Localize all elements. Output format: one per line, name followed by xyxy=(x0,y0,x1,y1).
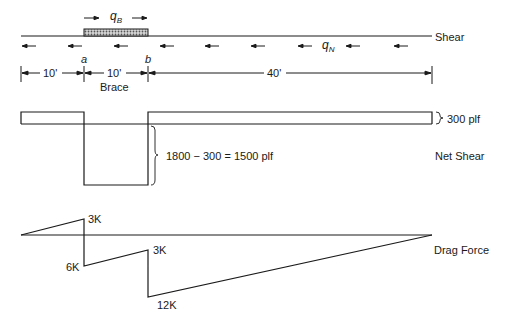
point-a-label: a xyxy=(81,53,87,65)
dim-right-label: 40' xyxy=(267,67,281,79)
drag-label-3k-b: 3K xyxy=(153,244,166,256)
drag-force-curve xyxy=(21,219,432,297)
brace-shear-value: 1800 − 300 = 1500 plf xyxy=(166,150,273,162)
net-shear-panel-title: Net Shear xyxy=(435,150,485,162)
drag-force-panel xyxy=(21,219,432,297)
brace-300 xyxy=(436,112,443,124)
shear-panel-title: Shear xyxy=(435,31,464,43)
drag-force-panel-title: Drag Force xyxy=(434,244,489,256)
brace-load-label: qB xyxy=(110,10,122,24)
diagram-canvas xyxy=(0,0,508,330)
drag-label-6k: 6K xyxy=(66,261,79,273)
dimension-line xyxy=(21,66,432,84)
net-load-arrows xyxy=(22,44,408,47)
net-shear-profile xyxy=(21,112,432,185)
net-shear-panel xyxy=(21,112,443,185)
brace-hatched-bar xyxy=(84,29,148,36)
uniform-shear-value: 300 plf xyxy=(447,113,480,125)
point-b-label: b xyxy=(145,53,151,65)
dim-left-label: 10' xyxy=(43,67,57,79)
net-load-label: qN xyxy=(322,39,334,53)
drag-label-3k-a: 3K xyxy=(88,213,101,225)
dim-brace-label: 10' xyxy=(107,67,121,79)
shear-panel xyxy=(21,16,432,84)
brace-label: Brace xyxy=(100,81,129,93)
brace-1500 xyxy=(151,126,158,185)
drag-label-12k: 12K xyxy=(157,299,177,311)
